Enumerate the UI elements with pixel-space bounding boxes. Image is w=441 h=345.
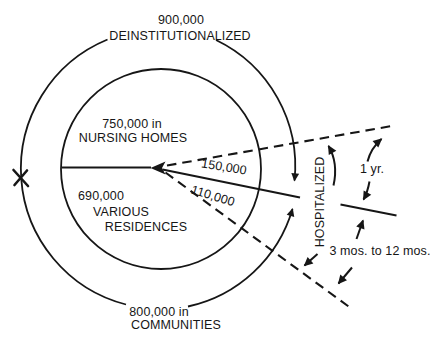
nursing-homes-count: 750,000 in (102, 117, 161, 131)
one-year-up-arrow (368, 139, 382, 162)
solid-ray-extension (341, 205, 397, 216)
hospitalized-up-arrow (329, 146, 336, 186)
deinstitutionalized-count: 900,000 (158, 13, 204, 27)
three-months-arrow-left (305, 254, 318, 266)
three-months-arrow-right (339, 268, 353, 284)
three-to-twelve-months-label: 3 mos. to 12 mos. (329, 244, 430, 258)
various-residences-caption-1: VARIOUS (93, 205, 149, 219)
various-residences-caption-2: RESIDENCES (105, 220, 187, 234)
deinstitutionalization-diagram: 900,000 DEINSTITUTIONALIZED 750,000 in N… (0, 0, 441, 345)
one-year-label: 1 yr. (360, 162, 384, 176)
communities-count: 800,000 in (129, 305, 188, 319)
deinstitutionalized-caption: DEINSTITUTIONALIZED (109, 29, 251, 43)
communities-caption: COMMUNITIES (131, 318, 221, 332)
outer-cycle-arc-top-right (216, 40, 295, 181)
nursing-homes-caption: NURSING HOMES (79, 131, 187, 145)
center-arrowhead (151, 162, 166, 175)
various-residences-count: 690,000 (78, 189, 124, 203)
one-year-down-arrow (364, 182, 370, 200)
outer-cycle-arc-bottom-right (188, 209, 293, 307)
duration-up-arrow (357, 221, 364, 240)
hospitalized-label: HOSPITALIZED (313, 157, 327, 248)
outer-cycle-arc-left (21, 40, 126, 305)
upper-dashed-ray (167, 126, 392, 166)
